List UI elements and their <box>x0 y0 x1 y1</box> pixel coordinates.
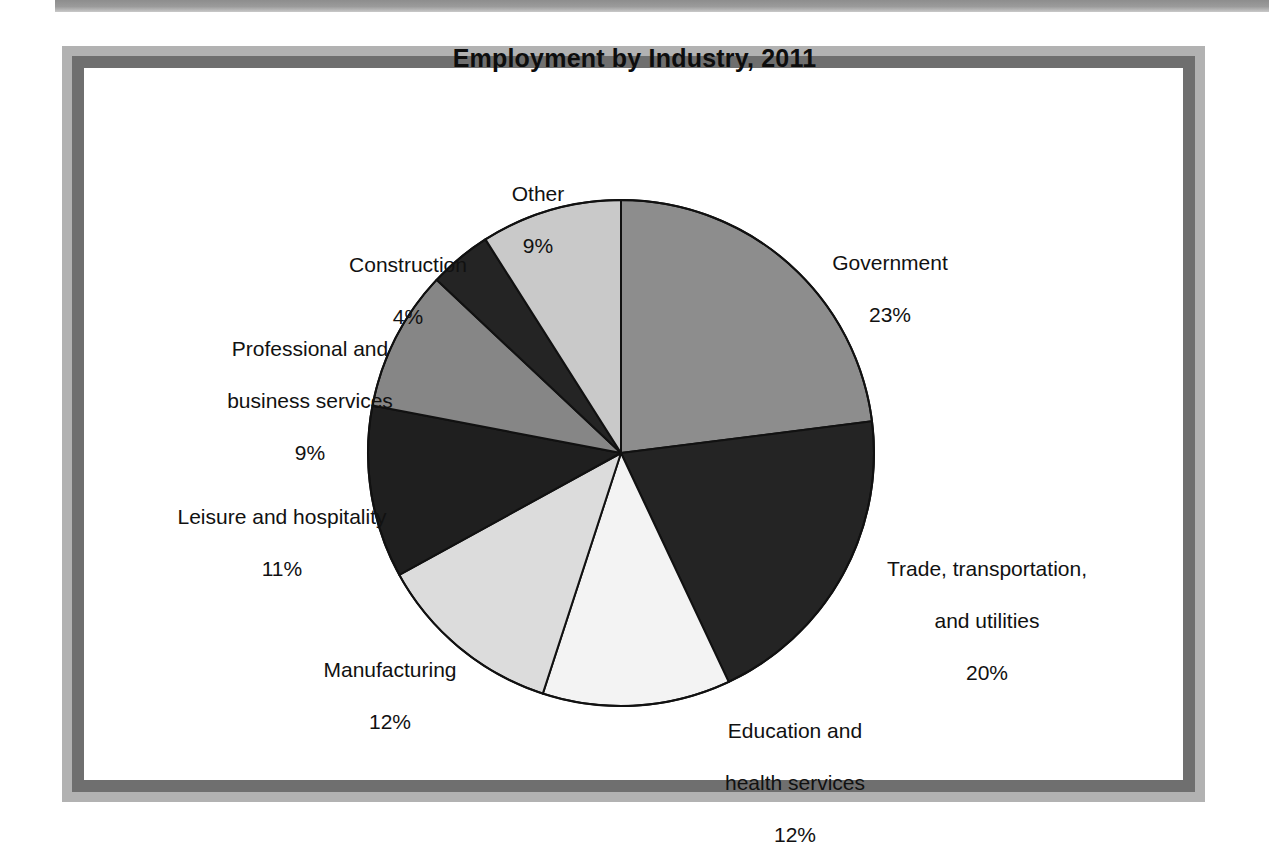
pie-label-professional-line2: business services <box>210 388 410 414</box>
pie-label-professional-value: 9% <box>210 440 410 466</box>
pie-label-government-line1: Government <box>790 250 990 276</box>
pie-label-government: Government 23% <box>790 224 990 354</box>
pie-label-construction-value: 4% <box>318 304 498 330</box>
pie-chart: Government 23% Trade, transportation, an… <box>0 0 1269 853</box>
pie-label-other-line1: Other <box>468 181 608 207</box>
pie-label-manufacturing: Manufacturing 12% <box>290 631 490 761</box>
pie-label-education-value: 12% <box>690 822 900 848</box>
pie-label-leisure-line1: Leisure and hospitality <box>152 504 412 530</box>
pie-label-trade-line1: Trade, transportation, <box>862 556 1112 582</box>
pie-chart-svg <box>0 0 1269 853</box>
pie-label-trade-value: 20% <box>862 660 1112 686</box>
pie-label-trade: Trade, transportation, and utilities 20% <box>862 530 1112 712</box>
pie-label-education-line2: health services <box>690 770 900 796</box>
pie-label-manufacturing-line1: Manufacturing <box>290 657 490 683</box>
pie-label-education-line1: Education and <box>690 718 900 744</box>
pie-label-manufacturing-value: 12% <box>290 709 490 735</box>
pie-label-trade-line2: and utilities <box>862 608 1112 634</box>
pie-label-other: Other 9% <box>468 155 608 285</box>
pie-label-leisure-value: 11% <box>152 556 412 582</box>
pie-label-education: Education and health services 12% <box>690 692 900 853</box>
pie-label-other-value: 9% <box>468 233 608 259</box>
pie-label-government-value: 23% <box>790 302 990 328</box>
pie-label-leisure: Leisure and hospitality 11% <box>152 478 412 608</box>
